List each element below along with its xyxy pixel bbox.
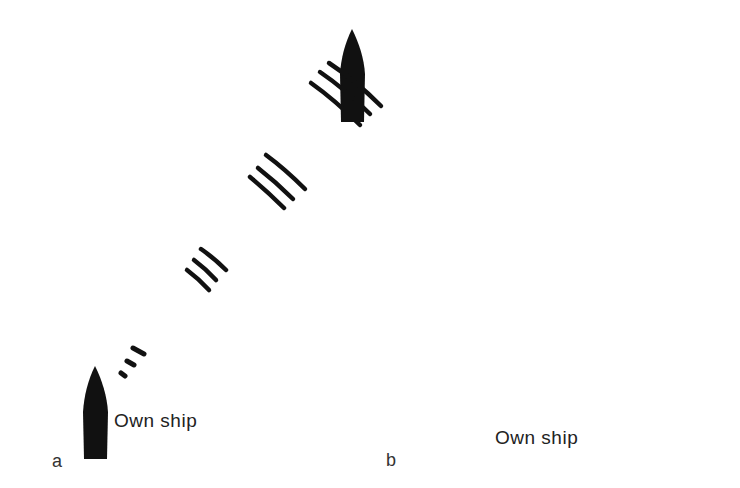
wave-group-1 (121, 348, 144, 376)
outgoing-pulse-waves (121, 63, 381, 376)
wave-group-2 (187, 249, 226, 290)
own-ship-label-a: Own ship (114, 410, 197, 432)
panel-a (83, 29, 381, 459)
wave-group-3 (250, 155, 305, 208)
own-ship-icon (83, 366, 108, 459)
sonar-diagram (0, 0, 740, 488)
panel-letter-a: a (52, 451, 62, 472)
panel-letter-b: b (386, 450, 396, 471)
own-ship-label-b: Own ship (495, 427, 578, 449)
